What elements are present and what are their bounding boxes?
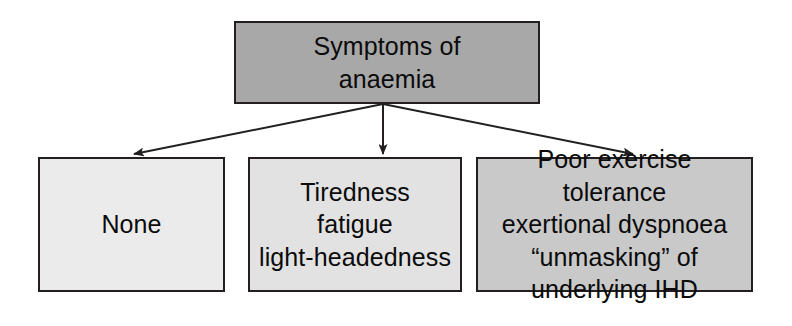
node-symptoms-of-anaemia: Symptoms of anaemia [234,21,540,104]
node-severe-label: Poor exercise tolerance exertional dyspn… [478,143,751,306]
node-root-label: Symptoms of anaemia [236,30,538,95]
node-none-label: None [40,208,223,241]
node-tiredness-fatigue: Tiredness fatigue light-headedness [248,157,462,292]
node-none: None [38,157,225,292]
node-poor-exercise-tolerance: Poor exercise tolerance exertional dyspn… [476,157,753,292]
node-mild-label: Tiredness fatigue light-headedness [250,176,460,274]
diagram-canvas: Symptoms of anaemia None Tiredness fatig… [0,0,792,326]
edge-root-to-none [134,104,383,154]
